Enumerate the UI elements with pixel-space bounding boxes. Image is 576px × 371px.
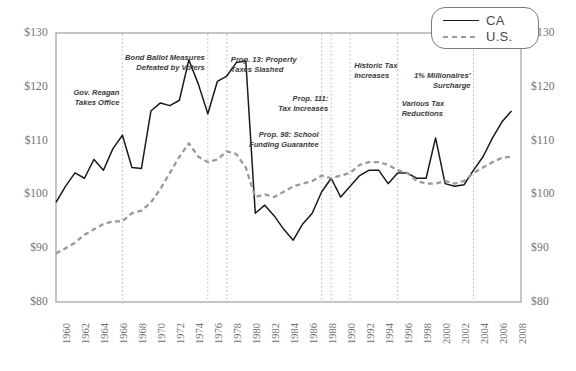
chart-annotation: Bond Ballot Measures Defeated by Voters [113, 53, 205, 74]
legend-label-us: U.S. [486, 29, 512, 44]
legend-entry-ca: CA [443, 13, 505, 28]
y-axis-tick-left: $100 [2, 187, 48, 199]
x-axis-tick: 1996 [403, 323, 414, 344]
legend-swatch-dashed-icon [443, 32, 479, 42]
x-axis-tick: 1998 [422, 323, 433, 344]
x-axis-tick: 2008 [517, 323, 528, 344]
x-axis-tick: 1988 [327, 323, 338, 344]
x-axis-tick: 1974 [194, 323, 205, 344]
x-axis-tick: 1962 [80, 323, 91, 344]
x-axis-tick: 1986 [308, 323, 319, 344]
x-axis-tick: 1972 [175, 323, 186, 344]
x-axis-tick: 1970 [156, 323, 167, 344]
chart-annotation: Prop. 13: Property Taxes Slashed [231, 55, 323, 76]
x-axis-tick: 1992 [365, 323, 376, 344]
chart-figure: $80$80$90$90$100$100$110$110$120$120$130… [0, 0, 576, 371]
y-axis-tick-left: $80 [2, 295, 48, 307]
x-axis-tick: 2002 [460, 323, 471, 344]
chart-legend: CA U.S. [431, 7, 539, 49]
x-axis-tick: 1964 [99, 323, 110, 344]
x-axis-tick: 1990 [346, 323, 357, 344]
x-axis-tick: 2000 [441, 323, 452, 344]
y-axis-tick-right: $120 [531, 80, 575, 92]
x-axis-tick: 1966 [118, 323, 129, 344]
x-axis-tick: 1976 [213, 323, 224, 344]
y-axis-tick-right: $90 [531, 241, 575, 253]
chart-annotation: Gov. Reagan Takes Office [27, 88, 119, 109]
y-axis-tick-right: $110 [531, 134, 575, 146]
x-axis-tick: 1980 [251, 323, 262, 344]
x-axis-tick: 1968 [137, 323, 148, 344]
y-axis-tick-right: $100 [531, 187, 575, 199]
chart-annotation: 1% Millionaires' Surcharge [379, 71, 471, 92]
x-axis-tick: 1982 [270, 323, 281, 344]
legend-label-ca: CA [486, 13, 505, 28]
x-axis-tick: 1978 [232, 323, 243, 344]
legend-entry-us: U.S. [443, 29, 512, 44]
y-axis-tick-right: $80 [531, 295, 575, 307]
legend-swatch-solid-icon [443, 16, 479, 26]
chart-annotation: Prop. 111: Tax Increases [236, 94, 328, 115]
x-axis-tick: 1960 [61, 323, 72, 344]
x-axis-tick: 2006 [498, 323, 509, 344]
y-axis-tick-left: $130 [2, 26, 48, 38]
chart-annotation: Various Tax Reductions [402, 99, 494, 120]
chart-annotation: Prop. 98: School Funding Guarantee [227, 130, 319, 151]
y-axis-tick-left: $90 [2, 241, 48, 253]
x-axis-tick: 1984 [289, 323, 300, 344]
y-axis-tick-left: $110 [2, 134, 48, 146]
x-axis-tick: 1994 [384, 323, 395, 344]
x-axis-tick: 2004 [479, 323, 490, 344]
